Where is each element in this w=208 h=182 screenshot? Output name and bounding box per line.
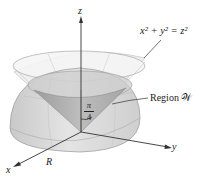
- x-axis-label: x: [6, 165, 10, 175]
- surface-equation-label: x² + y² = z²: [140, 26, 188, 37]
- figure: x² + y² = z² Region 𝒲 z y x R π 4: [0, 0, 208, 182]
- region-w-label: Region 𝒲: [150, 93, 191, 103]
- angle-label: π 4: [84, 101, 94, 121]
- z-axis-label: z: [78, 6, 82, 16]
- angle-denominator: 4: [84, 112, 94, 122]
- angle-numerator: π: [84, 101, 94, 112]
- y-axis-label: y: [172, 142, 176, 152]
- equation-leader-line: [144, 40, 161, 58]
- radius-label: R: [46, 157, 52, 167]
